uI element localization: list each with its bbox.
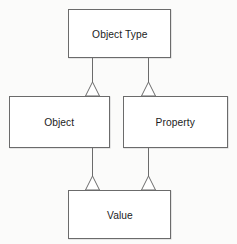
arrowhead-value-to-property xyxy=(142,176,156,190)
class-box-value[interactable]: Value xyxy=(68,190,171,239)
arrowhead-property-to-object-type xyxy=(142,82,156,96)
class-label-property: Property xyxy=(156,116,195,128)
arrowhead-object-to-object-type xyxy=(86,82,100,96)
class-box-object[interactable]: Object xyxy=(9,96,110,148)
class-box-object-type[interactable]: Object Type xyxy=(68,9,171,58)
class-box-property[interactable]: Property xyxy=(123,96,228,148)
class-label-object-type: Object Type xyxy=(92,28,147,40)
class-label-value: Value xyxy=(107,209,133,221)
uml-class-diagram: Object Type Object Property Value xyxy=(0,0,237,244)
arrowhead-value-to-object xyxy=(86,176,100,190)
class-label-object: Object xyxy=(44,116,74,128)
